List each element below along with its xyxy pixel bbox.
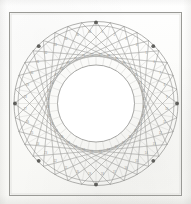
cell-label: 25 xyxy=(30,131,33,135)
node-marker xyxy=(37,159,41,163)
cell-label: 18 xyxy=(101,172,104,176)
cell-label: 34 xyxy=(65,37,68,41)
cell-label: 29 xyxy=(26,83,29,87)
envelope-circle xyxy=(58,65,135,142)
circle-envelope-diagram: 1234567891011121314151617181920212223242… xyxy=(0,0,191,204)
cell-label: 27 xyxy=(24,107,27,111)
figure-root: 1234567891011121314151617181920212223242… xyxy=(0,0,191,204)
cell-label: 21 xyxy=(65,166,68,170)
node-marker xyxy=(151,44,155,48)
cell-label: 2 xyxy=(114,33,116,37)
node-marker xyxy=(151,159,155,163)
cell-label: 66 xyxy=(51,81,54,85)
cell-label: 32 xyxy=(44,51,47,55)
cell-label: 72 xyxy=(90,53,93,57)
node-marker xyxy=(37,44,41,48)
cell-label: 5 xyxy=(145,51,147,55)
cell-label: 35 xyxy=(76,33,79,37)
cell-label: 26 xyxy=(26,120,29,124)
node-marker xyxy=(94,183,98,187)
cell-label: 19 xyxy=(88,172,91,176)
node-marker xyxy=(13,102,17,106)
cell-label: 33 xyxy=(54,43,57,47)
cell-label: 24 xyxy=(36,142,39,146)
cell-label: 1 xyxy=(101,30,103,34)
node-marker xyxy=(175,102,179,106)
cell-label: 28 xyxy=(24,95,27,99)
node-marker xyxy=(94,21,98,25)
cell-label: 20 xyxy=(76,170,79,174)
